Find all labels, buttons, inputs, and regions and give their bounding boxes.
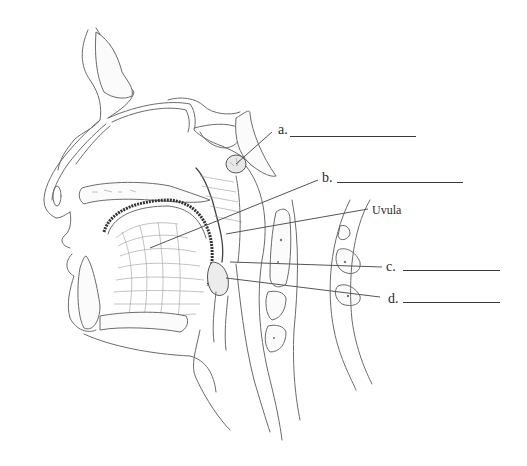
nasal-cavity	[108, 98, 276, 176]
label-b: b.	[322, 171, 333, 185]
soft-palate	[196, 168, 242, 262]
frontal-bone	[58, 28, 134, 170]
answer-blank-a[interactable]	[290, 136, 416, 137]
head-neck-illustration	[0, 0, 527, 466]
label-a: a.	[278, 123, 288, 137]
answer-blank-c[interactable]	[403, 270, 500, 271]
answer-blank-b[interactable]	[337, 182, 463, 183]
cervical-spine	[265, 209, 360, 352]
anatomy-diagram: a. b. Uvula c. d.	[0, 0, 527, 466]
label-uvula: Uvula	[372, 203, 401, 217]
hard-palate	[79, 182, 210, 204]
label-d: d.	[388, 292, 399, 306]
answer-blank-d[interactable]	[403, 302, 500, 303]
epiglottis-larynx	[208, 262, 229, 350]
label-c: c.	[386, 260, 396, 274]
tongue	[104, 200, 212, 318]
